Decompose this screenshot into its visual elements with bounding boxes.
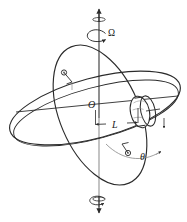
figure-container: Ω	[0, 0, 187, 222]
label-tilt-angle: θ	[140, 151, 145, 162]
theta-arc-arrow	[156, 152, 161, 155]
label-center-point: O	[88, 99, 95, 110]
label-arm-length: L	[111, 119, 118, 130]
precession-arrow-top	[87, 30, 105, 42]
center-point-marker: O	[88, 99, 95, 110]
pivot-bearing-lower	[122, 143, 131, 156]
label-spin-rate: Ω	[108, 28, 115, 38]
rotor-back-face	[127, 94, 152, 129]
angle-arc-theta: θ	[106, 144, 161, 162]
pivot-lower-bracket	[122, 144, 128, 153]
pivot-upper-bracket	[64, 73, 72, 83]
gimbal-diagram-svg: Ω	[0, 0, 187, 222]
pivot-lower-bracket-2	[122, 143, 129, 145]
vertical-axis-group: Ω	[87, 9, 115, 213]
theta-arc-path	[106, 144, 160, 159]
pivot-bearing-upper	[61, 70, 72, 84]
rotor-disk	[127, 94, 160, 129]
outer-ring-outline-bottom	[7, 66, 184, 159]
